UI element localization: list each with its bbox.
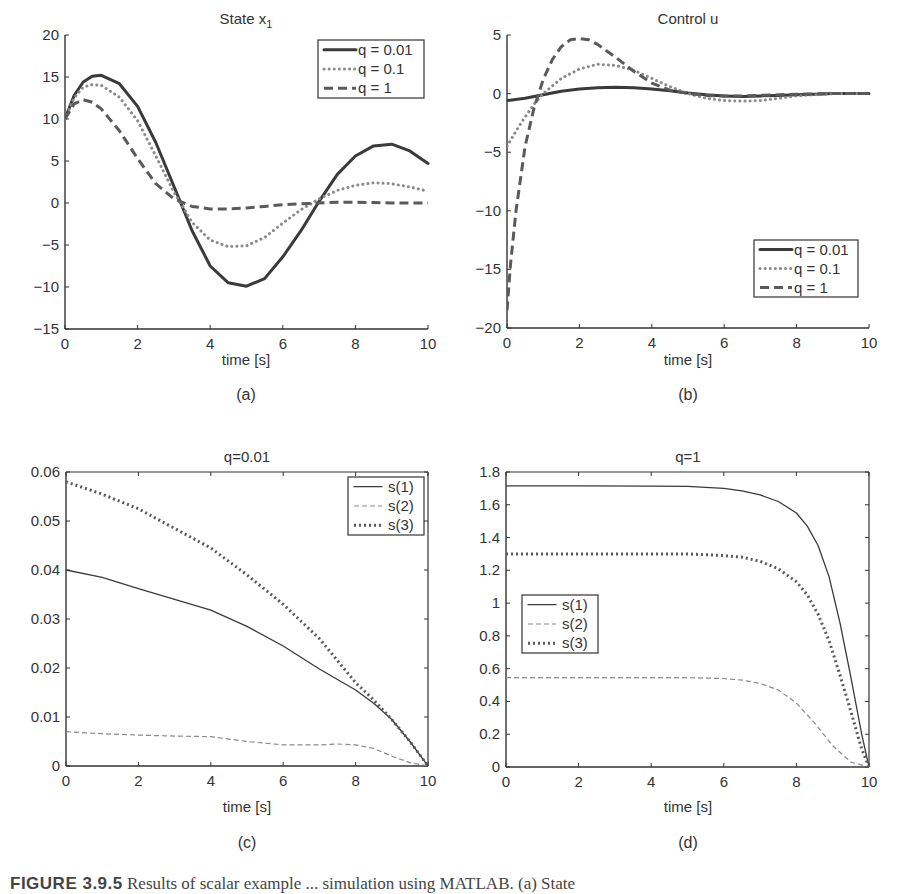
y-tick-label: 20 [42,26,59,43]
panel-b-title: Control u [658,10,719,27]
y-tick-label: −15 [34,320,59,337]
x-tick-label: 4 [647,773,655,790]
x-tick-label: 0 [62,772,70,789]
y-tick-label: 5 [493,26,501,43]
series-line-q-0-01 [65,75,428,286]
x-tick-label: 10 [861,773,878,790]
x-tick-label: 6 [720,334,728,351]
x-tick-label: 6 [720,773,728,790]
panel-d-riccati-q1: q=1 024681000.20.40.60.811.21.41.61.8s(1… [479,448,877,851]
legend-entry-label: q = 0.01 [794,241,849,258]
y-tick-label: 1.2 [479,561,500,578]
x-tick-label: 10 [420,335,437,352]
y-tick-label: −10 [34,278,59,295]
legend: s(1)s(2)s(3) [522,595,598,653]
series-line-s-2- [506,678,869,767]
panel-a-state-x1: State x1 0246810−15−10−505101520q = 0.01… [34,10,437,403]
y-tick-label: 1 [492,594,500,611]
panel-b-label: (b) [678,386,698,403]
x-tick-label: 4 [207,772,215,789]
legend-entry-label: s(3) [562,634,588,651]
y-tick-label: 0.06 [31,463,60,480]
panel-c-plot-area: 024681000.010.020.030.040.050.06s(1)s(2)… [31,463,437,789]
x-tick-label: 10 [420,772,437,789]
y-tick-label: 15 [42,68,59,85]
x-tick-label: 2 [574,773,582,790]
x-tick-label: 0 [503,334,511,351]
series-line-q-0-1 [65,85,428,247]
legend: q = 0.01q = 0.1q = 1 [318,40,424,98]
y-tick-label: 5 [51,152,59,169]
legend: s(1)s(2)s(3) [348,477,424,535]
legend-entry-label: s(1) [562,596,588,613]
y-tick-label: 1.6 [479,496,500,513]
panel-d-xlabel: time [s] [664,798,712,815]
y-tick-label: 0.05 [31,512,60,529]
panel-a-label: (a) [236,386,256,403]
panel-d-plot-area: 024681000.20.40.60.811.21.41.61.8s(1)s(2… [479,463,877,790]
x-tick-label: 2 [575,334,583,351]
y-tick-label: −15 [476,260,501,277]
x-tick-label: 8 [351,335,359,352]
y-tick-label: 0.8 [479,627,500,644]
panel-c-riccati-q001: q=0.01 024681000.010.020.030.040.050.06s… [31,448,437,851]
legend-entry-label: q = 1 [794,279,828,296]
legend-entry-label: q = 1 [358,79,392,96]
panel-b-control-u: Control u 0246810−20−15−10−505q = 0.01q … [476,10,878,403]
legend-entry-label: s(1) [388,478,414,495]
panel-a-xlabel: time [s] [222,351,270,368]
y-tick-label: 10 [42,110,59,127]
panel-a-title: State x1 [220,10,273,30]
panel-c-title: q=0.01 [224,448,270,465]
y-tick-label: 1.4 [479,529,500,546]
x-tick-label: 4 [206,335,214,352]
x-tick-label: 4 [648,334,656,351]
x-tick-label: 8 [351,772,359,789]
x-tick-label: 6 [279,772,287,789]
series-line-q-1 [65,100,428,209]
x-tick-label: 6 [279,335,287,352]
y-tick-label: 0.01 [31,708,60,725]
y-tick-label: −10 [476,202,501,219]
y-tick-label: 0.6 [479,660,500,677]
y-tick-label: 0 [52,757,60,774]
caption-text: Results of scalar example ... simulation… [127,874,575,893]
y-tick-label: 0 [493,85,501,102]
x-tick-label: 0 [502,773,510,790]
panel-d-label: (d) [678,834,698,851]
figure-caption: FIGURE 3.9.5 Results of scalar example .… [10,874,890,894]
panel-a-plot-area: 0246810−15−10−505101520q = 0.01q = 0.1q … [34,26,437,352]
y-tick-label: 0.2 [479,725,500,742]
axes: 0246810−20−15−10−505 [476,26,878,351]
caption-label: FIGURE 3.9.5 [10,874,123,893]
x-tick-label: 0 [61,335,69,352]
y-tick-label: 0 [51,194,59,211]
y-tick-label: −20 [476,319,501,336]
series-group [65,75,428,286]
x-tick-label: 2 [134,772,142,789]
series-line-s-2- [66,732,428,766]
legend-entry-label: s(3) [388,516,414,533]
y-tick-label: 0 [492,758,500,775]
legend-entry-label: s(2) [562,615,588,632]
legend: q = 0.01q = 0.1q = 1 [754,240,858,297]
y-tick-label: 0.03 [31,610,60,627]
panel-b-plot-area: 0246810−20−15−10−505q = 0.01q = 0.1q = 1 [476,26,878,351]
y-tick-label: −5 [42,236,59,253]
legend-entry-label: q = 0.1 [358,60,404,77]
y-tick-label: 0.4 [479,692,500,709]
legend-entry-label: q = 0.01 [358,41,413,58]
series-line-q-0-1 [507,64,869,146]
y-tick-label: 1.8 [479,463,500,480]
y-tick-label: 0.02 [31,659,60,676]
panel-d-title: q=1 [675,448,700,465]
legend-entry-label: q = 0.1 [794,260,840,277]
x-tick-label: 2 [133,335,141,352]
x-tick-label: 10 [861,334,878,351]
panel-b-xlabel: time [s] [664,351,712,368]
legend-entry-label: s(2) [388,497,414,514]
panel-c-xlabel: time [s] [223,798,271,815]
panel-c-label: (c) [238,834,257,851]
y-tick-label: 0.04 [31,561,60,578]
